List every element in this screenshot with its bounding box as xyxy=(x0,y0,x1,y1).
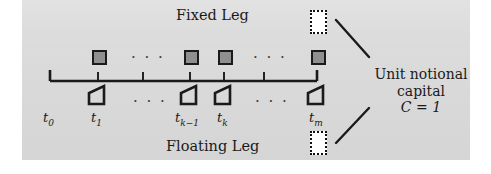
swap-cashflow-diagram: Fixed Leg · · · · · · · · · · · · xyxy=(0,0,491,174)
notional-annotation-line2: capital xyxy=(362,83,480,100)
notional-annotation-line3: C = 1 xyxy=(362,99,480,116)
axis-label-t1-sub: 1 xyxy=(96,118,102,128)
axis-label-tk-minus-1: tk−1 xyxy=(175,111,199,128)
floating-coupon-marker xyxy=(308,86,323,104)
floating-coupon-marker xyxy=(181,86,196,104)
axis-label-tk: tk xyxy=(217,111,228,128)
floating-leg-title: Floating Leg xyxy=(166,139,259,154)
notional-symbol: C xyxy=(401,99,412,115)
axis-label-t0-sub: 0 xyxy=(48,118,54,128)
notional-value: 1 xyxy=(432,99,441,115)
axis-label-tk-minus-1-sub: k−1 xyxy=(180,118,199,128)
notional-relation: = xyxy=(416,99,428,115)
floating-coupon-marker xyxy=(89,86,104,104)
axis-label-tm: tm xyxy=(309,111,323,128)
notional-annotation: Unit notional capital C = 1 xyxy=(362,66,480,116)
fixed-notional-box xyxy=(310,10,327,34)
axis-label-tk-sub: k xyxy=(222,118,227,128)
notional-annotation-line1: Unit notional xyxy=(362,66,480,83)
floating-notional-box xyxy=(310,131,327,155)
fixed-notional-leader-line xyxy=(336,20,369,57)
axis-label-t1: t1 xyxy=(91,111,102,128)
axis-label-tm-sub: m xyxy=(314,118,323,128)
axis-label-t0: t0 xyxy=(43,111,54,128)
floating-coupon-marker xyxy=(215,86,230,104)
